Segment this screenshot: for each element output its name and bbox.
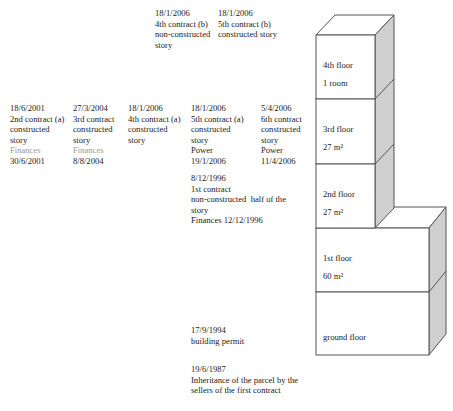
- floor-name: 1st floor: [323, 253, 352, 263]
- floor-ground-front: [316, 292, 429, 355]
- floor-name: 4th floor: [323, 60, 353, 70]
- floor-area: 27 m²: [323, 142, 353, 152]
- floor-area: 1 room: [323, 78, 353, 88]
- floor-ground-label: ground floor: [323, 332, 366, 342]
- floor-4-label: 4th floor 1 room: [323, 60, 353, 88]
- floor-name: ground floor: [323, 332, 366, 342]
- floor-2-label: 2nd floor 27 m²: [323, 189, 355, 217]
- floor-area: 60 m²: [323, 271, 352, 281]
- tower-side: [375, 15, 394, 228]
- floor-name: 3rd floor: [323, 124, 353, 134]
- floor-name: 2nd floor: [323, 189, 355, 199]
- floor-1-label: 1st floor 60 m²: [323, 253, 352, 281]
- floor-3-label: 3rd floor 27 m²: [323, 124, 353, 152]
- building-diagram: [0, 0, 453, 411]
- floor-area: 27 m²: [323, 207, 355, 217]
